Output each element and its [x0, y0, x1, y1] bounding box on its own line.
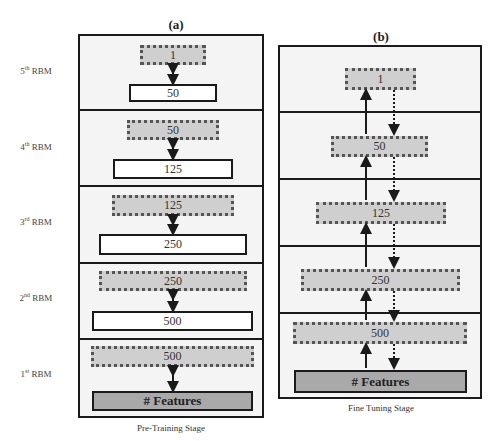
hidden-layer-box: 50 — [127, 120, 219, 140]
hidden-layer-box: 1 — [140, 45, 206, 65]
hidden-layer-box: 250 — [99, 271, 247, 291]
panel-a-caption: Pre-Training Stage — [91, 423, 251, 433]
section-divider — [78, 338, 264, 340]
section-divider — [278, 245, 482, 247]
section-divider — [78, 262, 264, 264]
section-divider — [278, 111, 482, 113]
layer-box-1: 1 — [345, 68, 416, 90]
layer-box-500: 500 — [293, 322, 467, 344]
rbm-label-2: 2nd RBM — [11, 292, 61, 303]
panel-b-title: (b) — [361, 29, 401, 45]
rbm-label-1: 1st RBM — [11, 368, 61, 379]
section-divider — [278, 312, 482, 314]
input-features-box: # Features — [92, 391, 253, 411]
rbm-label-4: 4th RBM — [11, 141, 61, 152]
layer-box-250: 250 — [301, 269, 460, 291]
layer-box-50: 50 — [331, 136, 428, 157]
input-features-box: # Features — [294, 370, 467, 393]
visible-layer-box: 250 — [99, 234, 247, 255]
layer-box-125: 125 — [316, 202, 446, 224]
panel-a-title: (a) — [156, 17, 196, 33]
panel-b-caption: Fine Tuning Stage — [301, 403, 461, 413]
visible-layer-box: 50 — [129, 84, 217, 102]
hidden-layer-box: 500 — [91, 346, 254, 367]
visible-layer-box: 500 — [92, 311, 253, 331]
section-divider — [78, 109, 264, 111]
section-divider — [278, 178, 482, 180]
hidden-layer-box: 125 — [112, 195, 234, 216]
section-divider — [78, 185, 264, 187]
rbm-label-3: 3rd RBM — [11, 216, 61, 227]
rbm-label-5: 5th RBM — [11, 65, 61, 76]
visible-layer-box: 125 — [113, 159, 233, 179]
